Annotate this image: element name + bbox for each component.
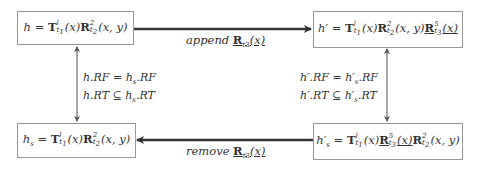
append-label: append Rt3(x) <box>186 33 265 49</box>
right-conditions: h′.RF = h′s.RF h′.RT ⊆ h′s.RT <box>300 71 378 107</box>
condition-rf: h′.RF = h′s.RF <box>300 71 378 89</box>
remove-label: remove Rt3(x) <box>186 144 265 160</box>
left-conditions: h.RF = hs.RF h.RT ⊆ hs.RT <box>83 71 156 107</box>
node-h-s-prime: h′s = Tlt1(x)R5t3(x)R2t2(x, y) <box>313 123 463 160</box>
node-h-s-expr: hs = Tlt1(x)R2t2(x, y) <box>23 132 130 148</box>
underlined-term: R5t3(x) <box>379 133 412 147</box>
node-h-prime-expr: h′ = Tlt1(x)R2t2(x, y)R5t3(x) <box>318 21 458 37</box>
condition-rt: h.RT ⊆ hs.RT <box>83 89 156 107</box>
condition-rt: h′.RT ⊆ h′s.RT <box>300 89 378 107</box>
node-h: h = Tlt1(x)R2t2(x, y) <box>17 11 134 45</box>
condition-rf: h.RF = hs.RF <box>83 71 156 89</box>
node-h-expr: h = Tlt1(x)R2t2(x, y) <box>24 20 128 36</box>
underlined-term: R5t3(x) <box>425 21 458 35</box>
node-h-prime: h′ = Tlt1(x)R2t2(x, y)R5t3(x) <box>313 11 463 48</box>
node-h-s-prime-expr: h′s = Tlt1(x)R5t3(x)R2t2(x, y) <box>316 133 459 149</box>
node-h-s: hs = Tlt1(x)R2t2(x, y) <box>17 123 136 158</box>
